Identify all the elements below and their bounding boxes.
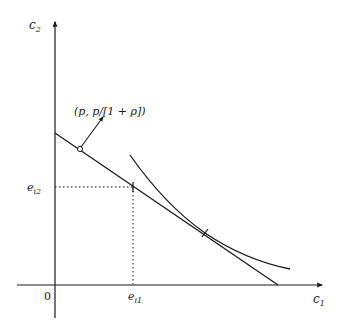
diagram-canvas: c2 c1 0 ei2 ei1 (p, p/[1 + ρ]) [0, 0, 339, 335]
normal-vector-origin-circle [77, 146, 82, 151]
y-axis-label: c2 [29, 18, 41, 34]
origin-label: 0 [44, 290, 51, 303]
x-axis-label-sub: 1 [320, 299, 325, 308]
endowment-x-label-sub: i1 [135, 296, 143, 305]
budget-line [55, 133, 278, 285]
indifference-curve [130, 155, 290, 269]
x-axis-label: c1 [313, 292, 325, 308]
y-axis-label-sub: 2 [35, 25, 41, 34]
endowment-x-label: ei1 [128, 290, 142, 305]
normal-vector-arrow [81, 117, 103, 147]
normal-vector-label: (p, p/[1 + ρ]) [74, 105, 146, 118]
endowment-y-label-sub: i2 [34, 187, 42, 196]
endowment-y-label: ei2 [27, 181, 41, 196]
diagram-svg: c2 c1 0 ei2 ei1 (p, p/[1 + ρ]) [0, 0, 339, 335]
